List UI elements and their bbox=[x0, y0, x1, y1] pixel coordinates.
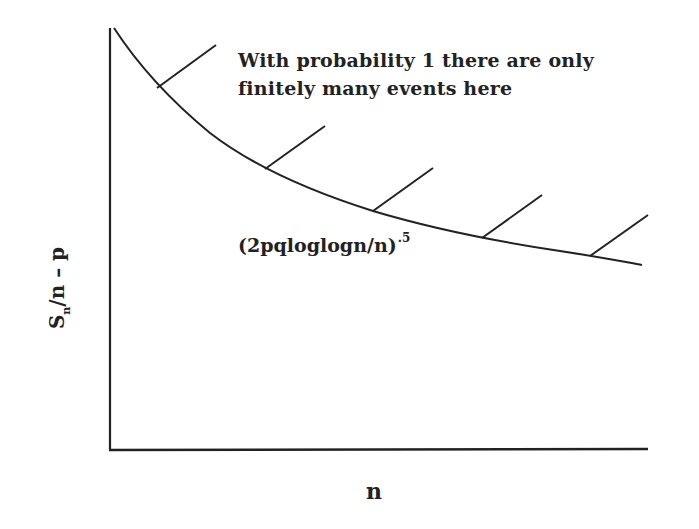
hatch-mark bbox=[482, 195, 542, 238]
y-label-suffix: /n – p bbox=[45, 247, 69, 307]
hatch-mark bbox=[265, 126, 325, 169]
y-axis-label: Sn/n – p bbox=[45, 247, 72, 329]
hatch-mark bbox=[373, 168, 433, 211]
y-label-subscript: n bbox=[60, 307, 73, 315]
y-label-prefix: S bbox=[45, 315, 69, 329]
hatch-mark bbox=[157, 45, 216, 88]
curve-formula-label: (2pqloglogn/n).5 bbox=[238, 234, 410, 256]
x-axis-label: n bbox=[366, 478, 382, 504]
annotation-line-1: With probability 1 there are only bbox=[238, 46, 594, 74]
annotation-line-2: finitely many events here bbox=[238, 74, 594, 102]
formula-exponent: .5 bbox=[398, 231, 411, 245]
x-axis bbox=[109, 449, 648, 450]
formula-base: (2pqloglogn/n) bbox=[238, 234, 397, 256]
region-annotation: With probability 1 there are only finite… bbox=[238, 46, 594, 102]
hatch-mark bbox=[590, 215, 648, 256]
law-of-iterated-logarithm-figure: With probability 1 there are only finite… bbox=[0, 0, 699, 529]
